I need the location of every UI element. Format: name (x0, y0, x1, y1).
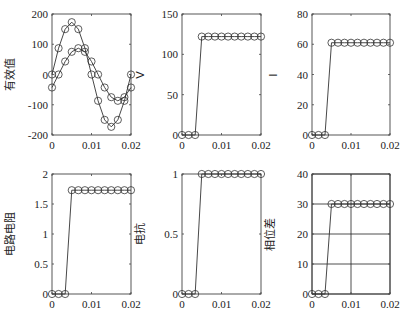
x-tick-label: 0.01 (341, 139, 360, 151)
y-tick-label: 40 (297, 168, 309, 180)
x-tick-label: 0.02 (251, 139, 270, 151)
subplot-5: 00.010.0200.51电抗 (133, 168, 271, 310)
subplot-4: 00.010.0200.511.52电路电阻 (4, 168, 141, 310)
series-line (182, 37, 261, 135)
y-tick-label: 0.5 (34, 258, 48, 270)
y-tick-label: 0.5 (164, 228, 178, 240)
axes-box (52, 174, 131, 294)
x-tick-label: 0.02 (121, 139, 140, 151)
x-tick-label: 0.01 (341, 298, 360, 310)
subplot-2: 00.010.02050100150 (162, 8, 271, 151)
x-tick-label: 0 (179, 139, 185, 151)
y-tick-label: 0 (303, 129, 309, 141)
x-tick-label: 0.01 (82, 298, 101, 310)
x-tick-label: 0 (309, 298, 315, 310)
y-tick-label: 2 (43, 168, 49, 180)
y-tick-label: 0 (173, 129, 179, 141)
y-axis-label: 有效值 (3, 58, 17, 91)
y-tick-label: 40 (297, 69, 309, 81)
subplot-3: 00.010.02020406080 (297, 8, 400, 151)
axes-box (312, 14, 390, 135)
series-line (182, 174, 261, 294)
y-axis-label: 电路电阻 (4, 212, 17, 256)
y-tick-label: 1 (43, 228, 49, 240)
x-tick-label: 0.02 (380, 298, 399, 310)
y-tick-label: 0 (303, 288, 309, 300)
y-tick-label: 20 (297, 228, 309, 240)
series-line (312, 43, 390, 135)
y-tick-label: 1 (173, 168, 179, 180)
x-tick-label: 0 (309, 139, 315, 151)
x-tick-label: 0 (179, 298, 185, 310)
y-tick-label: 50 (167, 89, 179, 101)
y-tick-label: 0 (173, 288, 179, 300)
x-tick-label: 0.02 (121, 298, 140, 310)
axes-box (182, 14, 261, 135)
y-tick-label: 0 (43, 69, 49, 81)
y-axis-label: 相位差 (263, 218, 277, 251)
y-tick-label: 30 (297, 198, 309, 210)
y-tick-label: 80 (297, 8, 309, 20)
y-tick-label: 100 (32, 38, 49, 50)
x-tick-label: 0 (49, 298, 55, 310)
y-tick-label: 150 (162, 8, 179, 20)
x-tick-label: 0.02 (380, 139, 399, 151)
y-tick-label: 10 (297, 258, 309, 270)
axes-box (182, 174, 261, 294)
y-tick-label: 60 (297, 38, 309, 50)
series-line (52, 190, 131, 294)
y-tick-label: -200 (28, 129, 49, 141)
y-tick-label: 1.5 (34, 198, 48, 210)
y-tick-label: 100 (162, 48, 179, 60)
y-axis-label: V (134, 71, 147, 79)
y-tick-label: -100 (28, 99, 49, 111)
y-axis-label: I (267, 73, 280, 76)
y-tick-label: 0 (43, 288, 49, 300)
x-tick-label: 0.01 (212, 298, 231, 310)
x-tick-label: 0.01 (212, 139, 231, 151)
x-tick-label: 0 (49, 139, 55, 151)
x-tick-label: 0.02 (251, 298, 270, 310)
y-tick-label: 200 (32, 8, 49, 20)
y-axis-label: 电抗 (133, 223, 147, 245)
x-tick-label: 0.01 (82, 139, 101, 151)
figure-canvas: 00.010.02-200-1000100200有效值00.010.020501… (0, 0, 408, 325)
subplot-1: 00.010.02-200-1000100200有效值 (3, 8, 141, 151)
subplot-6: 00.010.02010203040相位差 (263, 168, 400, 310)
y-tick-label: 20 (297, 99, 309, 111)
series-line (52, 22, 131, 127)
